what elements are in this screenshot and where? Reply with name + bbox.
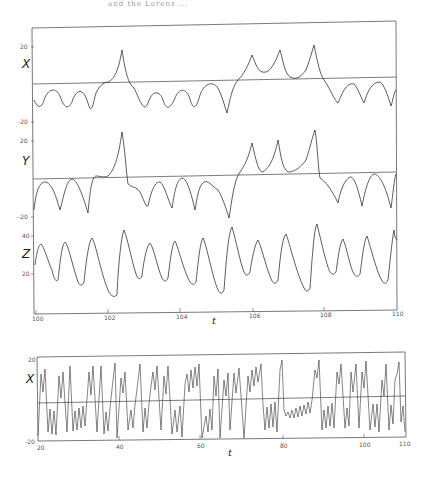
panel-y: 20 Y -20 [18,130,396,220]
y-panel-tick-neg20: -20 [18,213,28,220]
top-x-axis: 100 102 104 106 108 110 t [32,307,404,326]
top-xlabel-t: t [212,315,217,326]
figure: 20 X -20 20 Y -20 40 Z 20 100 102 [0,0,424,479]
x-panel-tick-20: 20 [20,43,28,50]
bottom-xtick-20: 20 [37,444,45,451]
z-panel-ylabel: Z [21,247,31,261]
x-panel-tick-neg20: -20 [18,118,28,125]
top-chart-frame [32,21,397,314]
top-xtick-102: 102 [104,314,116,321]
bottom-xtick-60: 60 [197,442,205,449]
top-xtick-106: 106 [249,312,261,319]
top-xtick-100: 100 [32,315,44,322]
bottom-tick-20: 20 [28,356,36,363]
z-panel-tick-40: 40 [22,232,30,239]
y-panel-curve [34,130,396,218]
z-panel-curve [35,224,397,296]
panel-x: 20 X -20 [18,43,396,125]
top-xtick-104: 104 [176,313,188,320]
top-xtick-108: 108 [320,311,332,318]
bottom-x-curve [38,360,405,438]
top-xtick-110: 110 [392,310,404,317]
bottom-tick-neg20: -20 [25,438,35,445]
x-panel-zero-line [33,77,396,84]
z-panel-tick-20: 20 [22,270,30,277]
y-panel-zero-line [33,172,396,179]
y-panel-tick-20: 20 [20,137,28,144]
bottom-xtick-100: 100 [359,441,371,448]
bottom-ylabel: X [25,372,35,386]
bottom-xlabel-t: t [228,447,233,458]
bottom-xtick-80: 80 [280,442,288,449]
bottom-xtick-40: 40 [116,443,124,450]
x-panel-curve [34,45,396,113]
y-panel-ylabel: Y [22,154,31,168]
x-panel-ylabel: X [21,57,31,71]
bottom-xtick-110: 110 [399,440,411,447]
bottom-chart: 20 X -20 20 40 60 80 100 110 t [25,352,411,458]
